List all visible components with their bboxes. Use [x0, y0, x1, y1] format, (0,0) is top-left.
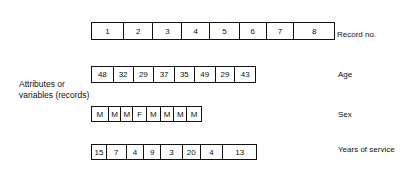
age-cell: 37 [154, 67, 175, 82]
age-cell: 48 [92, 67, 114, 82]
sex-cell: M [161, 107, 175, 121]
attributes-label-line1: Attributes or [19, 79, 89, 90]
sex-cell: M [147, 107, 161, 121]
age-row: 4832293735492943 [91, 66, 256, 83]
sex-cell: M [174, 107, 187, 121]
years-of-service-cell: 7 [107, 145, 127, 159]
years-of-service-row: 15749320413 [91, 144, 257, 160]
sex-cell: M [187, 107, 201, 121]
age-cell: 43 [235, 67, 255, 82]
sex-cell: M [121, 107, 133, 121]
age-cell: 29 [134, 67, 155, 82]
sex-row: MMMFMMMM [91, 106, 202, 122]
age-label: Age [338, 70, 352, 80]
years-of-service-cell: 15 [92, 145, 107, 159]
attributes-label-line2: variables (records) [19, 90, 89, 101]
sex-cell: M [92, 107, 109, 121]
record-no-cell: 1 [92, 23, 124, 39]
age-cell: 29 [216, 67, 236, 82]
years-of-service-cell: 13 [223, 145, 256, 159]
years-of-service-cell: 9 [144, 145, 161, 159]
years-of-service-cell: 20 [183, 145, 201, 159]
years-of-service-cell: 4 [201, 145, 224, 159]
record-no-cell: 3 [153, 23, 182, 39]
record-no-cell: 6 [240, 23, 267, 39]
years-of-service-label: Years of service [338, 145, 395, 155]
years-of-service-cell: 4 [127, 145, 145, 159]
age-cell: 32 [114, 67, 134, 82]
age-cell: 49 [195, 67, 216, 82]
age-cell: 35 [175, 67, 195, 82]
sex-label: Sex [338, 110, 352, 120]
sex-cell: M [109, 107, 122, 121]
record-no-cell: 4 [182, 23, 210, 39]
record-no-label: Record no. [337, 30, 376, 40]
record-no-cell: 7 [267, 23, 295, 39]
record-no-cell: 2 [124, 23, 154, 39]
record-no-cell: 5 [210, 23, 240, 39]
sex-cell: F [133, 107, 147, 121]
years-of-service-cell: 3 [161, 145, 183, 159]
record-no-cell: 8 [294, 23, 334, 39]
record-no-row: 12345678 [91, 22, 335, 40]
attributes-label: Attributes or variables (records) [19, 79, 89, 101]
